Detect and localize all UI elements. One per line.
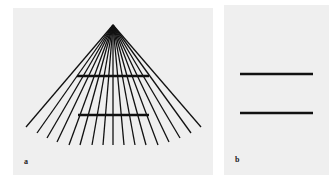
converging-ray: [37, 25, 113, 133]
converging-ray: [113, 25, 191, 133]
converging-ray: [113, 25, 158, 145]
illusion-figure: [0, 0, 336, 182]
panel-a-label: a: [24, 157, 28, 166]
converging-ray: [69, 25, 113, 145]
panel-b-label: b: [235, 155, 239, 164]
